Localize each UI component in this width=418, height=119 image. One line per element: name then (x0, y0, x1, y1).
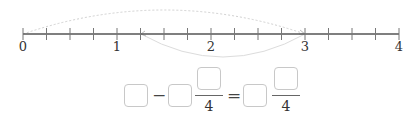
equals-sign: = (227, 87, 241, 104)
tick-label-3: 3 (295, 39, 315, 54)
answer-box-whole-result[interactable] (243, 84, 267, 107)
denominator-1: 4 (195, 98, 223, 114)
answer-box-numerator-result[interactable] (274, 67, 298, 90)
jump-arc-back (141, 34, 305, 57)
tick-label-1: 1 (107, 39, 127, 54)
tick-label-2: 2 (201, 39, 221, 54)
answer-box-whole-1[interactable] (124, 84, 148, 107)
denominator-2: 4 (272, 98, 300, 114)
tick-label-4: 4 (389, 39, 409, 54)
minus-sign: − (152, 87, 166, 104)
fraction-bar-2 (272, 95, 300, 96)
fraction-bar-1 (195, 95, 223, 96)
tick-label-0: 0 (13, 39, 33, 54)
answer-box-numerator-2[interactable] (197, 67, 221, 90)
answer-box-whole-2[interactable] (168, 84, 192, 107)
